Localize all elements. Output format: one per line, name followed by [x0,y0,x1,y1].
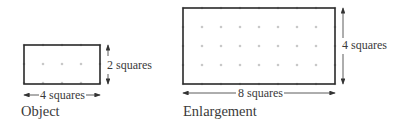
object-grid-dots [23,44,102,85]
object-width-label: 4 squares [39,88,86,103]
object-caption: Object [21,103,60,120]
enlargement-height-label: 4 squares [341,38,388,53]
enlargement-width-label: 8 squares [237,86,284,101]
object-height-label: 2 squares [106,58,153,73]
enlargement-grid-dots [182,7,337,86]
enlargement-caption: Enlargement [183,103,257,120]
